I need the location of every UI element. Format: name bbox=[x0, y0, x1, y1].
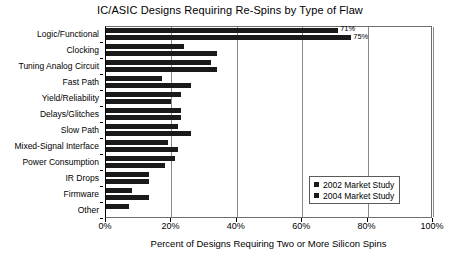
legend-swatch-icon bbox=[314, 182, 319, 187]
bar-row bbox=[106, 75, 431, 91]
y-axis-label-ir-drops: IR Drops bbox=[0, 170, 103, 186]
bar-row: 71%75% bbox=[106, 27, 431, 43]
bar-row bbox=[106, 123, 431, 139]
y-axis-tick bbox=[100, 122, 103, 123]
bar-row bbox=[106, 155, 431, 171]
bar-2002 bbox=[106, 28, 338, 33]
y-axis-tick bbox=[100, 218, 103, 219]
x-axis-label-100: 100% bbox=[420, 221, 443, 231]
legend-item-label: 2002 Market Study bbox=[323, 180, 394, 190]
y-axis-tick bbox=[100, 154, 103, 155]
legend-item-label: 2004 Market Study bbox=[323, 191, 394, 201]
legend-swatch-icon bbox=[314, 193, 319, 198]
bar-row bbox=[106, 203, 431, 219]
y-axis-label-other: Other bbox=[0, 202, 103, 218]
legend-item: 2004 Market Study bbox=[314, 190, 394, 201]
bar-2002 bbox=[106, 172, 149, 177]
bar-2004 bbox=[106, 115, 181, 120]
x-axis-label-80: 80% bbox=[358, 221, 376, 231]
y-axis-label-firmware: Firmware bbox=[0, 186, 103, 202]
bar-2002 bbox=[106, 92, 181, 97]
x-axis-label-20: 20% bbox=[161, 221, 179, 231]
bar-2004 bbox=[106, 99, 171, 104]
y-axis-label-tuning-analog-circuit: Tuning Analog Circuit bbox=[0, 58, 103, 74]
x-axis-tick bbox=[170, 218, 171, 222]
bar-value-label: 75% bbox=[351, 32, 368, 41]
x-axis-tick bbox=[236, 218, 237, 222]
bar-row bbox=[106, 107, 431, 123]
y-axis-label-yield-reliability: Yield/Reliability bbox=[0, 90, 103, 106]
x-axis-label-40: 40% bbox=[227, 221, 245, 231]
bar-2002 bbox=[106, 156, 175, 161]
y-axis-tick bbox=[100, 90, 103, 91]
bar-2002 bbox=[106, 204, 129, 209]
chart-legend: 2002 Market Study2004 Market Study bbox=[309, 176, 400, 204]
bar-2002 bbox=[106, 140, 168, 145]
gridline-100 bbox=[433, 27, 434, 217]
bar-row bbox=[106, 91, 431, 107]
y-axis-category-labels: Logic/FunctionalClockingTuning Analog Ci… bbox=[0, 26, 103, 218]
bar-2004 bbox=[106, 195, 149, 200]
bar-2004 bbox=[106, 131, 191, 136]
chart-figure: IC/ASIC Designs Requiring Re-Spins by Ty… bbox=[0, 0, 460, 262]
y-axis-label-clocking: Clocking bbox=[0, 42, 103, 58]
bar-2004 bbox=[106, 67, 217, 72]
y-axis-tick bbox=[100, 106, 103, 107]
bar-2004 bbox=[106, 51, 217, 56]
bar-2002 bbox=[106, 44, 184, 49]
y-axis-tick bbox=[100, 170, 103, 171]
bar-2004 bbox=[106, 163, 165, 168]
bar-2002 bbox=[106, 108, 181, 113]
legend-item: 2002 Market Study bbox=[314, 179, 394, 190]
bar-2002 bbox=[106, 124, 178, 129]
x-axis-tick bbox=[432, 218, 433, 222]
x-axis-tick bbox=[301, 218, 302, 222]
bar-row bbox=[106, 139, 431, 155]
y-axis-label-delays-glitches: Delays/Glitches bbox=[0, 106, 103, 122]
bar-row bbox=[106, 43, 431, 59]
bar-2004 bbox=[106, 147, 178, 152]
y-axis-tick bbox=[100, 202, 103, 203]
y-axis-label-logic-functional: Logic/Functional bbox=[0, 26, 103, 42]
y-axis-tick bbox=[100, 186, 103, 187]
y-axis-label-mixed-signal-interface: Mixed-Signal Interface bbox=[0, 138, 103, 154]
x-axis-label-60: 60% bbox=[292, 221, 310, 231]
bar-2004 bbox=[106, 83, 191, 88]
bar-2002 bbox=[106, 76, 162, 81]
y-axis-tick bbox=[100, 42, 103, 43]
y-axis-label-power-consumption: Power Consumption bbox=[0, 154, 103, 170]
x-axis-tick bbox=[367, 218, 368, 222]
y-axis-tick bbox=[100, 58, 103, 59]
bar-row bbox=[106, 59, 431, 75]
bar-2004 bbox=[106, 35, 351, 40]
y-axis-tick bbox=[100, 74, 103, 75]
y-axis-label-fast-path: Fast Path bbox=[0, 74, 103, 90]
bar-2002 bbox=[106, 60, 211, 65]
bar-2002 bbox=[106, 188, 132, 193]
y-axis-tick bbox=[100, 138, 103, 139]
x-axis-tick bbox=[105, 218, 106, 222]
x-axis-label-0: 0% bbox=[98, 221, 111, 231]
bar-2004 bbox=[106, 179, 149, 184]
y-axis-label-slow-path: Slow Path bbox=[0, 122, 103, 138]
x-axis-title: Percent of Designs Requiring Two or More… bbox=[105, 238, 432, 249]
chart-title: IC/ASIC Designs Requiring Re-Spins by Ty… bbox=[0, 4, 460, 16]
x-axis-tick-labels: 0%20%40%60%80%100% bbox=[0, 221, 460, 235]
